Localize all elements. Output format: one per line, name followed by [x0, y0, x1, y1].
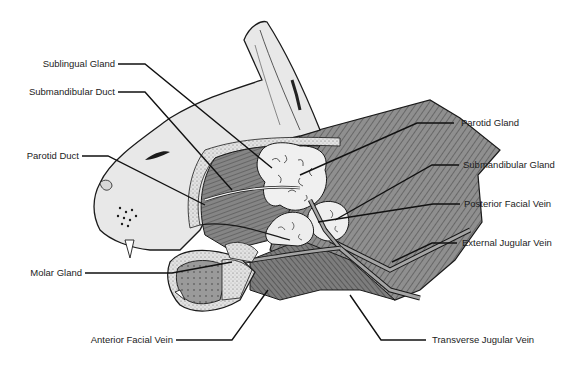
parotid-gland [257, 143, 326, 211]
label-posterior-facial-vein: Posterior Facial Vein [464, 198, 551, 210]
cat-head-illustration [0, 0, 581, 370]
label-submandibular-gland: Submandibular Gland [463, 159, 555, 171]
label-molar-gland: Molar Gland [0, 267, 82, 279]
molar-gland [222, 259, 252, 300]
label-anterior-facial-vein: Anterior Facial Vein [0, 334, 173, 346]
label-parotid-duct: Parotid Duct [0, 150, 79, 162]
label-parotid-gland: Parotid Gland [461, 117, 519, 129]
label-sublingual-gland: Sublingual Gland [0, 58, 115, 70]
label-transverse-jugular-vein: Transverse Jugular Vein [432, 334, 534, 346]
label-submandibular-duct: Submandibular Duct [0, 86, 115, 98]
label-external-jugular-vein: External Jugular Vein [462, 237, 552, 249]
anatomy-diagram: Sublingual Gland Submandibular Duct Paro… [0, 0, 581, 370]
